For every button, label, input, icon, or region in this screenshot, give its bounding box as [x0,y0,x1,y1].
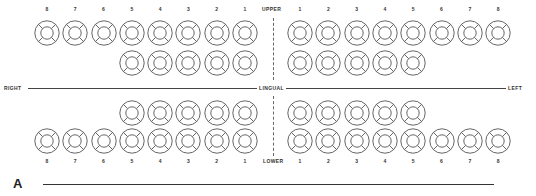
tooth-ring-icon [372,128,398,154]
tooth-number-upper-left-4: 4 [384,6,387,12]
tooth-lower-left-1[interactable] [287,128,313,154]
tooth-upper-left-7[interactable] [457,20,483,46]
tooth-lower-right-inner-1[interactable] [232,100,258,126]
tooth-upper-left-2[interactable] [315,20,341,46]
tooth-lower-right-inner-3[interactable] [175,100,201,126]
tooth-lower-right-7[interactable] [62,128,88,154]
tooth-lower-left-2[interactable] [315,128,341,154]
tooth-number-lower-right-7: 7 [74,158,77,164]
tooth-ring-icon [344,100,370,126]
tooth-upper-left-inner-1[interactable] [287,50,313,76]
tooth-upper-right-4[interactable] [147,20,173,46]
tooth-ring-icon [204,20,230,46]
tooth-upper-right-7[interactable] [62,20,88,46]
tooth-lower-right-6[interactable] [91,128,117,154]
tooth-number-upper-right-4: 4 [159,6,162,12]
tooth-upper-right-8[interactable] [34,20,60,46]
tooth-upper-right-inner-4[interactable] [147,50,173,76]
tooth-number-upper-left-2: 2 [327,6,330,12]
tooth-lower-right-inner-2[interactable] [204,100,230,126]
tooth-ring-icon [204,128,230,154]
tooth-lower-right-4[interactable] [147,128,173,154]
tooth-upper-right-6[interactable] [91,20,117,46]
tooth-upper-right-2[interactable] [204,20,230,46]
tooth-lower-left-inner-1[interactable] [287,100,313,126]
tooth-upper-left-8[interactable] [485,20,511,46]
tooth-upper-left-inner-4[interactable] [372,50,398,76]
tooth-lower-left-inner-2[interactable] [315,100,341,126]
tooth-number-upper-right-7: 7 [74,6,77,12]
tooth-ring-icon [175,100,201,126]
tooth-upper-left-1[interactable] [287,20,313,46]
tooth-number-upper-right-3: 3 [187,6,190,12]
tooth-ring-icon [91,128,117,154]
tooth-number-lower-left-4: 4 [384,158,387,164]
tooth-lower-left-inner-3[interactable] [344,100,370,126]
tooth-number-lower-right-5: 5 [130,158,133,164]
figure-letter: A [13,176,22,191]
tooth-lower-left-inner-5[interactable] [400,100,426,126]
tooth-lower-left-7[interactable] [457,128,483,154]
tooth-ring-icon [457,128,483,154]
tooth-ring-icon [91,20,117,46]
tooth-lower-right-2[interactable] [204,128,230,154]
tooth-number-lower-left-1: 1 [299,158,302,164]
tooth-lower-right-1[interactable] [232,128,258,154]
tooth-ring-icon [429,128,455,154]
tooth-ring-icon [175,50,201,76]
tooth-ring-icon [204,100,230,126]
tooth-number-upper-right-5: 5 [130,6,133,12]
tooth-upper-left-inner-2[interactable] [315,50,341,76]
tooth-upper-left-3[interactable] [344,20,370,46]
tooth-ring-icon [400,50,426,76]
tooth-lower-left-6[interactable] [429,128,455,154]
tooth-ring-icon [232,100,258,126]
tooth-ring-icon [315,50,341,76]
tooth-lower-left-5[interactable] [400,128,426,154]
tooth-ring-icon [62,128,88,154]
tooth-ring-icon [400,20,426,46]
tooth-lower-left-4[interactable] [372,128,398,154]
tooth-lower-right-3[interactable] [175,128,201,154]
tooth-upper-right-inner-2[interactable] [204,50,230,76]
tooth-ring-icon [315,100,341,126]
tooth-number-lower-right-6: 6 [102,158,105,164]
tooth-number-lower-right-3: 3 [187,158,190,164]
label-right: RIGHT [2,85,24,91]
tooth-ring-icon [119,50,145,76]
tooth-upper-right-inner-3[interactable] [175,50,201,76]
tooth-ring-icon [175,20,201,46]
tooth-lower-left-3[interactable] [344,128,370,154]
tooth-lower-right-inner-5[interactable] [119,100,145,126]
tooth-ring-icon [287,50,313,76]
tooth-ring-icon [62,20,88,46]
tooth-upper-left-4[interactable] [372,20,398,46]
tooth-upper-left-5[interactable] [400,20,426,46]
tooth-lower-left-8[interactable] [485,128,511,154]
tooth-upper-right-inner-1[interactable] [232,50,258,76]
tooth-lower-right-8[interactable] [34,128,60,154]
midline-divider-lower [273,96,274,156]
tooth-ring-icon [372,20,398,46]
tooth-upper-left-6[interactable] [429,20,455,46]
tooth-number-lower-left-5: 5 [412,158,415,164]
tooth-ring-icon [485,128,511,154]
tooth-lower-right-5[interactable] [119,128,145,154]
tooth-upper-right-5[interactable] [119,20,145,46]
tooth-upper-right-1[interactable] [232,20,258,46]
tooth-number-lower-left-8: 8 [497,158,500,164]
tooth-upper-right-3[interactable] [175,20,201,46]
tooth-lower-left-inner-4[interactable] [372,100,398,126]
tooth-ring-icon [147,100,173,126]
tooth-upper-left-inner-3[interactable] [344,50,370,76]
tooth-number-lower-left-2: 2 [327,158,330,164]
tooth-number-upper-left-5: 5 [412,6,415,12]
tooth-upper-left-inner-5[interactable] [400,50,426,76]
tooth-ring-icon [287,20,313,46]
tooth-number-lower-left-7: 7 [468,158,471,164]
tooth-upper-right-inner-5[interactable] [119,50,145,76]
tooth-ring-icon [400,100,426,126]
tooth-ring-icon [485,20,511,46]
label-lower: LOWER [261,158,286,164]
tooth-lower-right-inner-4[interactable] [147,100,173,126]
